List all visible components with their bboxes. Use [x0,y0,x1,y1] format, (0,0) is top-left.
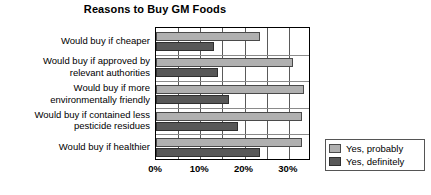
legend-item[interactable]: Yes, definitely [329,155,421,168]
x-axis-tick-label: 0% [148,163,162,174]
x-axis-tick-label: 20% [234,163,253,174]
legend-swatch-probably [329,144,341,153]
row-separator [156,108,309,109]
legend-label: Yes, probably [346,143,403,154]
y-axis-label: Would buy if approved byrelevant authori… [0,55,150,78]
y-axis-label: Would buy if contained lesspesticide res… [0,109,150,132]
chart-title: Reasons to Buy GM Foods [0,3,310,15]
row-separator [156,81,309,82]
legend-item[interactable]: Yes, probably [329,142,421,155]
y-axis-label-line: Would buy if contained less [0,109,150,121]
row-separator [156,134,309,135]
bar-definitely [156,148,260,157]
y-axis-category-labels: Would buy if cheaperWould buy if approve… [0,27,150,160]
bar-probably [156,112,302,121]
y-axis-label-line: Would buy if approved by [0,55,150,67]
y-axis-label: Would buy if healthier [0,141,150,153]
x-axis-tick-label: 10% [190,163,209,174]
bar-probably [156,58,293,67]
bar-probably [156,138,302,147]
bar-definitely [156,68,218,77]
y-axis-label-line: Would buy if cheaper [0,35,150,47]
row-separator [156,55,309,56]
legend-label: Yes, definitely [346,156,404,167]
x-axis-tick-label: 30% [278,163,297,174]
chart-legend: Yes, probablyYes, definitely [325,139,425,171]
bar-probably [156,85,304,94]
plot-area [155,27,310,160]
bar-definitely [156,95,229,104]
y-axis-label-line: environmentally friendly [0,94,150,106]
y-axis-label-line: relevant authorities [0,67,150,79]
bar-definitely [156,42,214,51]
y-axis-label: Would buy if cheaper [0,35,150,47]
y-axis-label-line: Would buy if healthier [0,141,150,153]
chart-container: Reasons to Buy GM Foods Would buy if che… [0,0,431,195]
legend-swatch-definitely [329,157,341,166]
y-axis-label-line: pesticide residues [0,120,150,132]
bar-probably [156,32,260,41]
y-axis-label: Would buy if moreenvironmentally friendl… [0,82,150,105]
bar-definitely [156,122,238,131]
y-axis-label-line: Would buy if more [0,82,150,94]
